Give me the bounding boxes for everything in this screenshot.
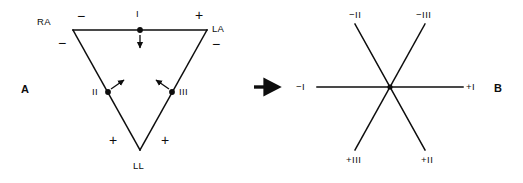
diagram-canvas: [0, 0, 523, 183]
triaxial-reference-graphic: [317, 24, 463, 150]
lead-label-I: I: [136, 9, 139, 19]
lead-I-midpoint-dot: [137, 27, 143, 33]
polarity-sign-lead-III-positive: +: [161, 133, 169, 147]
axis-label-lead-I-negative: −I: [296, 82, 305, 92]
polarity-sign-lead-II-negative: −: [58, 36, 66, 50]
electrode-label-ll: LL: [133, 161, 144, 171]
lead-III-direction-arrow: [156, 80, 169, 89]
lead-label-III: III: [179, 87, 188, 97]
polarity-sign-lead-III-negative: −: [212, 37, 220, 51]
ecg-lead-axes-figure: A RA LA LL I II III − + − + − + B −I +I …: [0, 0, 523, 183]
axis-label-lead-III-negative: −III: [416, 10, 431, 20]
lead-III-midpoint-dot: [169, 89, 175, 95]
lead-II-direction-arrow: [111, 80, 124, 89]
panel-letter-a: A: [21, 84, 29, 95]
lead-label-II: II: [92, 87, 98, 97]
axis-label-lead-I-positive: +I: [466, 82, 475, 92]
axes-origin-dot: [387, 84, 392, 89]
axis-label-lead-II-negative: −II: [349, 10, 361, 20]
electrode-label-la: LA: [212, 24, 224, 34]
polarity-sign-lead-I-negative: −: [77, 9, 85, 23]
panel-letter-b: B: [494, 83, 502, 94]
axis-label-lead-II-positive: +II: [421, 155, 433, 165]
axis-label-lead-III-positive: +III: [346, 155, 361, 165]
lead-II-midpoint-dot: [105, 89, 111, 95]
polarity-sign-lead-II-positive: +: [109, 133, 117, 147]
polarity-sign-lead-I-positive: +: [195, 8, 203, 22]
electrode-label-ra: RA: [37, 17, 51, 27]
